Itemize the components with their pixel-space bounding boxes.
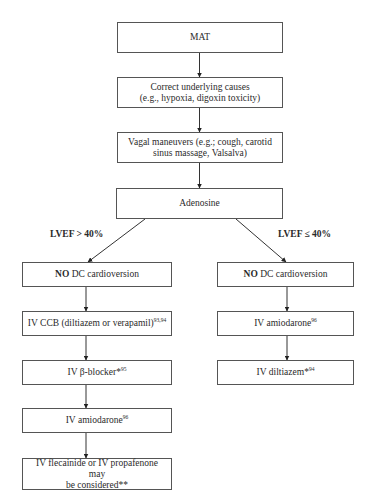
node-vagal-line1: Vagal maneuvers (e.g.; cough, carotid [128,137,272,148]
node-iv-amiodarone-left-ref: 96 [123,414,129,420]
node-right-no-dc-bold: NO [244,269,258,279]
node-iv-amiodarone-right-text: IV amiodarone [254,318,311,328]
node-vagal-maneuvers: Vagal maneuvers (e.g.; cough, carotid si… [117,132,283,163]
node-correct-underlying-causes: Correct underlying causes (e.g., hypoxia… [117,77,283,108]
node-correct-causes-line1: Correct underlying causes [140,82,261,93]
node-right-no-dc-rest: DC cardioversion [258,269,328,279]
node-iv-ccb-text: IV CCB (diltiazem or verapamil) [28,318,154,328]
node-mat-text: MAT [190,32,210,43]
node-iv-amiodarone-right: IV amiodarone96 [217,311,354,336]
node-iv-ccb: IV CCB (diltiazem or verapamil)93,94 [22,311,172,336]
node-iv-amiodarone-left-text: IV amiodarone [66,415,123,425]
node-mat: MAT [117,22,283,53]
node-iv-amiodarone-right-ref: 96 [311,317,317,323]
node-iv-diltiazem: IV diltiazem*94 [217,360,354,385]
node-iv-beta-blocker: IV β-blocker*95 [22,360,172,385]
node-adenosine: Adenosine [116,188,283,219]
node-iv-diltiazem-ref: 94 [309,366,315,372]
branch-label-lvef-above-40: LVEF > 40% [50,229,103,239]
node-iv-beta-blocker-text: IV β-blocker* [68,367,121,377]
node-iv-beta-blocker-ref: 95 [121,366,127,372]
node-left-no-dc-bold: NO [55,269,69,279]
node-adenosine-text: Adenosine [179,198,220,209]
node-vagal-line2: sinus massage, Valsalva) [128,148,272,159]
node-right-no-dc-cardioversion: NO DC cardioversion [217,262,354,287]
node-iv-flecainide-propafenone: IV flecainide or IV propafenone may be c… [22,458,172,490]
node-iv-ccb-ref: 93,94 [154,317,166,323]
node-iv-amiodarone-left: IV amiodarone96 [22,408,172,433]
node-left-no-dc-cardioversion: NO DC cardioversion [22,262,172,287]
node-iv-flecainide-line2: be considered** [27,480,167,491]
node-iv-diltiazem-text: IV diltiazem* [257,367,309,377]
node-correct-causes-line2: (e.g., hypoxia, digoxin toxicity) [140,93,261,104]
branch-label-lvef-at-most-40: LVEF ≤ 40% [278,229,331,239]
node-left-no-dc-rest: DC cardioversion [69,269,139,279]
node-iv-flecainide-line1: IV flecainide or IV propafenone may [27,458,167,480]
